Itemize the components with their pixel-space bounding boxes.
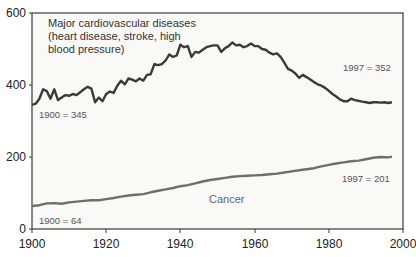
y-tick-label: 200 — [6, 150, 26, 164]
x-tick-label: 1980 — [316, 237, 343, 251]
line-chart: 600 400 200 0 1900 1920 1940 1960 1980 2… — [0, 0, 416, 257]
cvd-label: (heart disease, stroke, high — [48, 30, 181, 42]
x-tick-label: 2000 — [390, 237, 416, 251]
cancer-end-annotation: 1997 = 201 — [342, 173, 390, 184]
x-tick-label: 1920 — [93, 237, 120, 251]
y-tick-label: 0 — [19, 222, 26, 236]
x-tick-label: 1900 — [19, 237, 46, 251]
cancer-start-annotation: 1900 = 64 — [39, 215, 82, 226]
x-tick-label: 1940 — [167, 237, 194, 251]
cancer-label: Cancer — [209, 193, 245, 205]
x-tick-label: 1960 — [242, 237, 269, 251]
cvd-label: blood pressure) — [48, 43, 124, 55]
y-tick-label: 400 — [6, 78, 26, 92]
cvd-start-annotation: 1900 = 345 — [39, 109, 87, 120]
y-tick-label: 600 — [6, 6, 26, 20]
cvd-end-annotation: 1997 = 352 — [343, 62, 391, 73]
cvd-label: Major cardiovascular diseases — [48, 17, 196, 29]
